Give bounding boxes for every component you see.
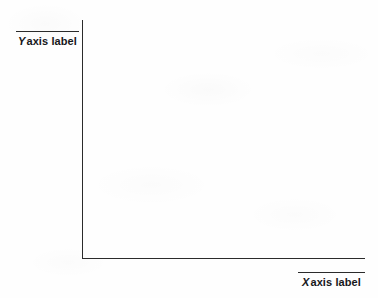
x-axis-label: Xaxis label <box>298 272 365 289</box>
x-axis-label-text: axis label <box>310 276 361 288</box>
x-axis-line <box>82 258 365 259</box>
figure-canvas: Yaxis label Xaxis label <box>0 0 378 298</box>
y-axis-label-text: axis label <box>26 35 77 47</box>
y-axis-label: Yaxis label <box>16 31 79 48</box>
y-axis-line <box>82 20 83 259</box>
